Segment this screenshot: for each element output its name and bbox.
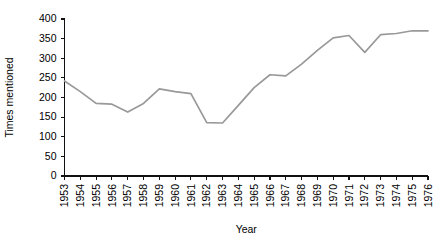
y-tick-label: 300: [39, 52, 57, 64]
x-tick-label: 1959: [153, 184, 165, 208]
x-tick-label: 1963: [216, 184, 228, 208]
x-tick-label: 1967: [279, 184, 291, 208]
x-tick-label: 1973: [374, 184, 386, 208]
y-tick-label: 400: [39, 12, 57, 24]
x-tick-label: 1960: [169, 184, 181, 208]
line-chart: 050100150200250300350400 195319541955195…: [0, 0, 439, 239]
x-tick-label: 1953: [58, 184, 70, 208]
x-tick-label: 1955: [90, 184, 102, 208]
y-tick-label: 50: [45, 150, 57, 162]
x-axis-tick-labels: 1953195419551956195719581959196019611962…: [58, 184, 434, 208]
y-tick-label: 150: [39, 110, 57, 122]
x-tick-label: 1971: [343, 184, 355, 208]
x-tick-label: 1958: [137, 184, 149, 208]
y-tick-label: 0: [51, 169, 57, 181]
x-tick-label: 1961: [185, 184, 197, 208]
y-axis-tick-labels: 050100150200250300350400: [39, 12, 57, 181]
x-tick-label: 1954: [74, 184, 86, 208]
data-series-line: [65, 31, 429, 123]
y-tick-label: 350: [39, 32, 57, 44]
chart-canvas: 050100150200250300350400 195319541955195…: [0, 0, 439, 239]
y-tick-label: 100: [39, 130, 57, 142]
x-tick-label: 1962: [200, 184, 212, 208]
x-axis-title: Year: [236, 223, 258, 235]
x-tick-label: 1956: [106, 184, 118, 208]
x-tick-label: 1957: [121, 184, 133, 208]
y-tick-label: 250: [39, 71, 57, 83]
x-tick-label: 1976: [422, 184, 434, 208]
x-tick-label: 1972: [358, 184, 370, 208]
x-tick-label: 1975: [406, 184, 418, 208]
x-tick-label: 1965: [248, 184, 260, 208]
x-tick-label: 1969: [311, 184, 323, 208]
y-axis-title: Times mentioned: [3, 57, 15, 137]
x-tick-label: 1974: [390, 184, 402, 208]
y-tick-label: 200: [39, 91, 57, 103]
x-tick-label: 1966: [264, 184, 276, 208]
x-tick-label: 1968: [295, 184, 307, 208]
x-tick-label: 1964: [232, 184, 244, 208]
x-tick-label: 1970: [327, 184, 339, 208]
